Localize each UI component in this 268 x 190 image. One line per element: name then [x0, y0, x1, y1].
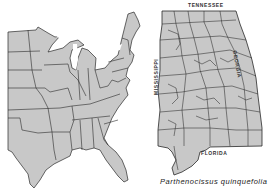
border-label-tennessee: TENNESSEE — [188, 2, 224, 8]
border-label-mississippi: MISSISSIPPI — [153, 59, 159, 95]
distribution-map-figure: TENNESSEE GEORGIA MISSISSIPPI FLORIDA Pa… — [0, 0, 268, 190]
species-caption: Parthenocissus quinquefolia — [160, 177, 267, 186]
alabama-county-map — [0, 0, 268, 190]
border-label-florida: FLORIDA — [201, 150, 227, 156]
